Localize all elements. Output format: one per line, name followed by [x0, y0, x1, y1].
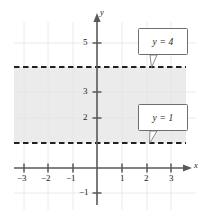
- y-tick-label-5: 5: [83, 38, 88, 47]
- y-tick-label-neg1: −1: [79, 188, 89, 197]
- x-tick-label-3: 3: [169, 174, 174, 183]
- callout-y-equals-4: y = 4: [138, 28, 188, 55]
- graph-figure: −3 −2 −1 1 2 3 5 3 2 −1 x y y = 4 y = 1: [0, 0, 209, 217]
- x-tick-label-2: 2: [144, 174, 149, 183]
- x-tick-label-neg3: −3: [17, 174, 27, 183]
- y-axis-name: y: [100, 8, 104, 17]
- callout-tail-upper: [150, 55, 157, 68]
- x-tick-label-neg1: −1: [66, 174, 76, 183]
- x-axis-name: x: [194, 161, 198, 170]
- y-tick-label-3: 3: [83, 87, 88, 96]
- y-tick-label-2: 2: [83, 113, 88, 122]
- callout-y-equals-1: y = 1: [138, 104, 188, 131]
- x-tick-label-neg2: −2: [41, 174, 51, 183]
- x-axis: [14, 164, 192, 173]
- x-tick-label-1: 1: [120, 174, 125, 183]
